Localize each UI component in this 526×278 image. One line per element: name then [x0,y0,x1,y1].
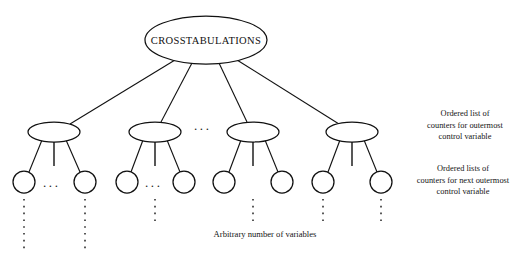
leaf-circle-5[interactable] [213,171,235,193]
leaf-circle-3[interactable] [116,171,138,193]
edge-root-to-ellipse-4 [237,60,339,124]
ellipse-node-1[interactable] [28,122,80,142]
hdots-between-level2-nodes-icon: ... [194,118,212,133]
hdots-between-leaf-1-and-2-icon: ... [43,175,61,190]
edge-ellipse-2-to-circle-3 [131,140,143,172]
ellipse-node-2[interactable] [129,122,181,142]
crosstabulations-tree-diagram: CROSSTABULATIONS ... ... ... [0,0,526,278]
edge-ellipse-1-to-circle-2 [66,140,80,172]
vertical-dot-columns [24,199,381,252]
edge-ellipse-2-to-circle-4 [167,140,180,172]
leaf-nodes [13,171,392,193]
ellipse-node-3[interactable] [227,122,279,142]
ellipse-node-4[interactable] [326,122,378,142]
leaf-circle-7[interactable] [312,171,334,193]
leaf-circle-2[interactable] [74,171,96,193]
leaf-circle-4[interactable] [173,171,195,193]
root-node[interactable]: CROSSTABULATIONS [145,16,267,64]
edge-root-to-ellipse-1 [70,60,175,124]
edge-ellipse-3-to-circle-6 [265,140,278,172]
level2-to-leaf-edges [29,140,377,172]
leaf-circle-1[interactable] [13,171,35,193]
caption-arbitrary-number-of-variables: Arbitrary number of variables [150,229,380,239]
leaf-circle-6[interactable] [271,171,293,193]
edge-root-to-ellipse-3 [219,63,247,122]
edge-ellipse-3-to-circle-5 [229,140,241,172]
edge-ellipse-1-to-circle-1 [29,140,42,172]
root-to-level2-edges [70,60,339,124]
annotation-next-outermost-control-variable: Ordered lists of counters for next outer… [400,163,526,198]
annotation-outermost-control-variable: Ordered list of counters for outermost c… [404,108,526,143]
leaf-circle-8[interactable] [370,171,392,193]
edge-root-to-ellipse-2 [161,63,192,122]
edge-ellipse-4-to-circle-8 [364,140,377,172]
hdots-between-leaf-3-and-4-icon: ... [145,175,163,190]
root-node-label: CROSSTABULATIONS [151,35,261,46]
edge-ellipse-4-to-circle-7 [328,140,340,172]
